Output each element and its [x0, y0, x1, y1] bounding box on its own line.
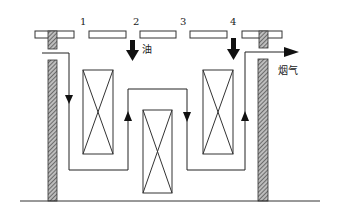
- top-plate-1: [89, 31, 126, 38]
- arrow-4-icon: [227, 38, 240, 60]
- oil-arrow-icon: [126, 40, 139, 61]
- box-left: [83, 70, 113, 154]
- box-middle: [143, 110, 172, 193]
- top-plates: [35, 31, 282, 38]
- flue-gas-exit-arrow-icon: [284, 47, 299, 57]
- plate-label-3: 3: [180, 16, 186, 27]
- flow-arrow-down-mid-right-icon: [183, 112, 191, 122]
- plate-label-1: 1: [80, 16, 86, 27]
- flow-arrow-up-right-icon: [241, 111, 249, 121]
- plate-label-4: 4: [230, 16, 236, 27]
- plate-label-2: 2: [133, 16, 139, 27]
- flow-arrow-down-left-icon: [65, 95, 73, 104]
- top-plate-3: [190, 31, 227, 38]
- left-wall: [48, 60, 57, 201]
- oil-label: 油: [142, 43, 152, 55]
- flow-arrow-up-mid-left-icon: [124, 111, 132, 121]
- right-wall-top: [259, 31, 268, 48]
- flue-gas-flow-path: [42, 52, 290, 170]
- left-wall-top: [48, 31, 57, 49]
- furnace-diagram: 1 2 3 4 油 烟气: [0, 0, 341, 216]
- box-right: [203, 70, 233, 154]
- right-wall: [258, 59, 268, 201]
- top-plate-2: [140, 31, 176, 38]
- flue-gas-label: 烟气: [278, 64, 298, 76]
